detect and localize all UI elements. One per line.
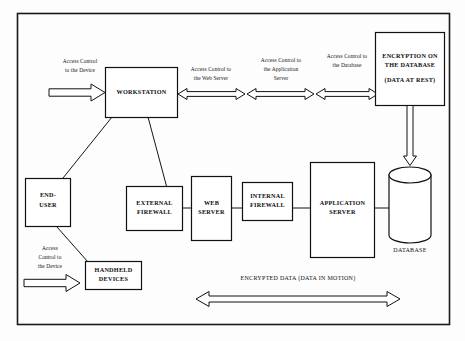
arrow-application-server-database [316,89,378,100]
connector-workstation-external-firewall [148,117,167,188]
annotation-device-bottom-line2: Control to [38,254,61,260]
caption-encrypted-data-in-motion: ENCRYPTED DATA (DATA IN MOTION) [240,275,355,282]
connector-workstation-end-user [63,117,112,178]
annotation-device-bottom-line1: Access [42,245,58,251]
annotation-app-server-line2: the Application [264,66,299,72]
annotation-device-top-line2: to the Device [65,67,96,73]
annotation-app-server-line3: Server [274,75,289,81]
node-application-server-label-line1: APPLICATION [320,199,366,206]
node-internal-firewall-label-line1: INTERNAL [250,192,285,199]
annotation-device-top-line1: Access Control [63,58,98,64]
annotation-database-line2: the Database [333,62,362,68]
node-end-user-label-line1: END- [40,191,56,198]
arrow-access-control-device-top [49,84,105,101]
node-web-server-label-line2: SERVER [198,208,225,215]
arrow-workstation-web-server [178,89,245,100]
node-workstation-label: WORKSTATION [117,88,167,95]
node-encryption-database-label-line2: THE DATABASE [385,61,435,68]
node-web-server-label-line1: WEB [204,199,219,206]
node-external-firewall-label-line2: FIREWALL [137,208,172,215]
annotation-database-line1: Access Control to [327,53,368,59]
annotation-device-bottom-line3: the Device [38,263,63,269]
node-end-user-label-line2: USER [39,201,57,208]
arrow-web-server-application-server [247,89,314,100]
node-encryption-database[interactable] [376,33,445,106]
connector-end-user-handheld [57,227,88,262]
annotation-app-server-line1: Access Control to [261,57,302,63]
node-internal-firewall-label-line2: FIREWALL [250,201,285,208]
arrow-encrypted-data-in-motion [196,292,400,307]
node-application-server-label-line2: SERVER [329,208,356,215]
arrow-access-control-device-bottom [24,275,80,292]
arrow-encryption-to-database [404,106,417,166]
node-external-firewall-label-line1: EXTERNAL [136,199,172,206]
node-encryption-database-label-line3: (DATA AT REST) [385,76,436,84]
annotation-web-server-line1: Access Control to [191,66,232,72]
node-encryption-database-label-line1: ENCRYPTION ON [382,52,438,59]
node-database-cylinder[interactable] [389,167,431,243]
annotation-web-server-line2: the Web Server [194,75,229,81]
node-handheld-devices-label-line2: DEVICES [99,275,129,282]
node-handheld-devices-label-line1: HANDHELD [95,266,133,273]
node-database-caption: DATABASE [393,247,426,253]
diagram-canvas: WORKSTATION ENCRYPTION ON THE DATABASE (… [0,0,465,341]
